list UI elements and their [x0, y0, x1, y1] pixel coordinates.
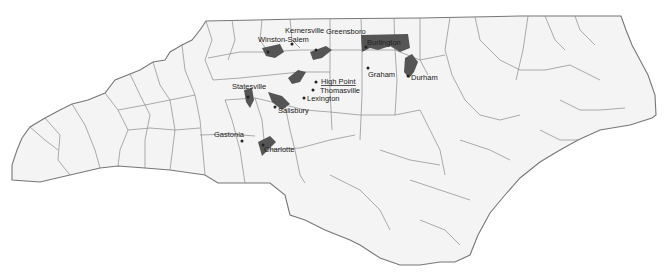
label-greensboro: Greensboro [326, 27, 366, 36]
label-charlotte: Charlotte [264, 145, 294, 154]
label-graham: Graham [368, 70, 395, 79]
label-high-point: High Point [321, 77, 357, 86]
label-salisbury: Salisbury [278, 106, 309, 115]
label-gastonia: Gastonia [214, 130, 245, 139]
label-durham: Durham [411, 73, 438, 82]
label-lexington: Lexington [307, 94, 340, 103]
label-winston-salem: Winston-Salem [258, 35, 309, 44]
state-outline [12, 16, 656, 265]
label-burlington: Burlington [367, 38, 401, 47]
label-kernersville: Kernersville [285, 26, 324, 35]
label-statesville: Statesville [232, 82, 266, 91]
nc-map: Kernersville Winston-Salem Greensboro Bu… [0, 0, 668, 280]
